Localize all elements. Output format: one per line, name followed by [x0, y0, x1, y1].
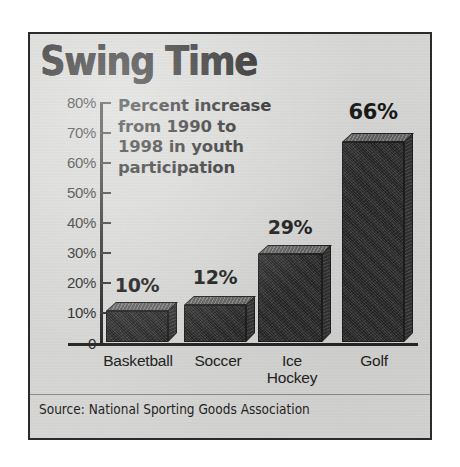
bar-value-label: 12% — [193, 268, 237, 287]
annotation-line-2: from 1990 to — [118, 117, 318, 138]
annotation-line-3: 1998 in youth — [118, 137, 318, 158]
y-tick-50: 50% — [30, 186, 114, 200]
bar-basketball[interactable]: 10% — [106, 302, 168, 342]
x-label-soccer: Soccer — [176, 352, 260, 369]
x-label-line: Basketball — [88, 352, 188, 369]
bar-3d-body — [184, 305, 246, 342]
chart-panel: Swing Time 80% 70% 60% 50% 40% 30% — [28, 32, 432, 440]
x-label-ice-hockey: Ice Hockey — [254, 352, 330, 386]
x-label-line: Hockey — [254, 369, 330, 386]
chart-annotation: Percent increase from 1990 to 1998 in yo… — [118, 96, 318, 178]
bar-front-face — [258, 254, 322, 342]
y-tick-mark — [100, 222, 111, 224]
y-tick-60: 60% — [30, 156, 114, 170]
annotation-line-4: participation — [118, 158, 318, 179]
annotation-line-1: Percent increase — [118, 96, 318, 117]
y-tick-label: 0 — [34, 337, 96, 351]
bar-soccer[interactable]: 12% — [184, 298, 246, 342]
y-tick-30: 30% — [30, 246, 114, 260]
source-note: Source: National Sporting Goods Associat… — [39, 401, 310, 417]
bar-golf[interactable]: 66% — [342, 136, 404, 342]
bar-3d-body — [106, 311, 168, 342]
bar-front-face — [342, 142, 404, 342]
y-tick-label: 30% — [34, 246, 96, 260]
y-tick-10: 10% — [30, 306, 114, 320]
y-tick-0: 0 — [30, 337, 114, 351]
bar-side-face — [404, 133, 413, 342]
bar-top-face — [342, 133, 414, 142]
bar-value-label: 29% — [268, 218, 312, 237]
bar-front-face — [106, 311, 168, 342]
y-tick-label: 40% — [34, 216, 96, 230]
y-tick-mark — [100, 102, 111, 104]
source-divider — [30, 394, 430, 395]
y-tick-mark — [100, 192, 111, 194]
y-tick-label: 80% — [34, 96, 96, 110]
x-label-line: Golf — [336, 352, 412, 369]
bar-front-face — [184, 305, 246, 342]
bar-side-face — [168, 302, 177, 342]
y-tick-mark — [100, 132, 111, 134]
bar-ice-hockey[interactable]: 29% — [258, 248, 322, 342]
y-tick-label: 20% — [34, 276, 96, 290]
bar-side-face — [322, 245, 331, 342]
y-tick-mark — [100, 162, 111, 164]
bar-top-face — [106, 302, 178, 311]
bar-top-face — [184, 296, 256, 305]
bar-top-face — [258, 245, 332, 254]
y-tick-20: 20% — [30, 276, 114, 290]
y-tick-label: 70% — [34, 126, 96, 140]
y-tick-mark — [100, 252, 111, 254]
y-tick-label: 10% — [34, 306, 96, 320]
y-tick-mark — [100, 282, 111, 284]
bar-value-label: 66% — [348, 103, 397, 122]
x-label-line: Soccer — [176, 352, 260, 369]
x-label-line: Ice — [254, 352, 330, 369]
bar-3d-body — [342, 142, 404, 342]
bar-3d-body — [258, 254, 322, 342]
x-label-golf: Golf — [336, 352, 412, 369]
x-axis-baseline — [68, 343, 418, 346]
bar-value-label: 10% — [115, 276, 159, 295]
y-tick-70: 70% — [30, 126, 114, 140]
y-tick-label: 60% — [34, 156, 96, 170]
bar-side-face — [246, 296, 255, 342]
x-label-basketball: Basketball — [88, 352, 188, 369]
plot-area: 80% 70% 60% 50% 40% 30% 20% 10% — [30, 34, 430, 438]
chart-title: Swing Time — [40, 38, 257, 84]
y-tick-label: 50% — [34, 186, 96, 200]
y-tick-40: 40% — [30, 216, 114, 230]
y-tick-80: 80% — [30, 96, 114, 110]
